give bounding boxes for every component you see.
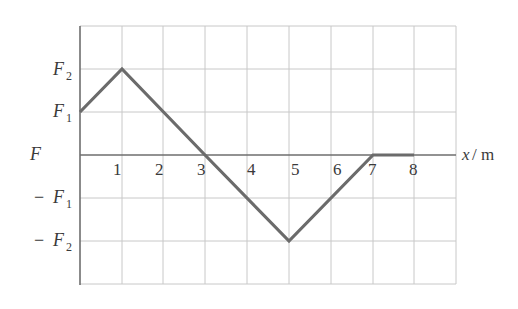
svg-text:−: − [34, 230, 44, 250]
svg-text:1: 1 [66, 111, 72, 125]
svg-text:F: F [52, 187, 65, 207]
y-axis-label: F [29, 144, 42, 164]
x-tick-8: 8 [409, 160, 418, 179]
svg-text:F: F [52, 101, 65, 121]
svg-text:F: F [52, 59, 65, 79]
svg-text:2: 2 [66, 240, 72, 254]
x-tick-3: 3 [197, 160, 206, 179]
x-tick-2: 2 [155, 160, 164, 179]
svg-text:F: F [52, 230, 65, 250]
x-tick-labels: 1 2 3 4 5 6 7 8 [113, 160, 418, 179]
svg-text:−: − [34, 187, 44, 207]
svg-text:x: x [461, 145, 470, 164]
x-tick-7: 7 [368, 160, 377, 179]
svg-text:/ m: / m [472, 145, 494, 164]
x-tick-1: 1 [113, 160, 122, 179]
y-tick-neg-F2: − F 2 [34, 230, 72, 254]
y-tick-neg-F1: − F 1 [34, 187, 72, 211]
x-tick-4: 4 [247, 160, 256, 179]
y-tick-F1: F 1 [52, 101, 72, 125]
x-tick-5: 5 [291, 160, 300, 179]
y-tick-F2: F 2 [52, 59, 72, 83]
svg-text:1: 1 [66, 197, 72, 211]
svg-text:2: 2 [66, 69, 72, 83]
force-displacement-chart: 1 2 3 4 5 6 7 8 x / m F F 2 F 1 − F 1 − … [0, 0, 518, 309]
x-tick-6: 6 [333, 160, 342, 179]
x-axis-label: x / m [461, 145, 494, 164]
